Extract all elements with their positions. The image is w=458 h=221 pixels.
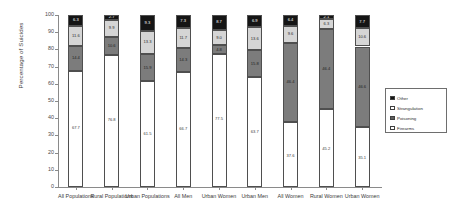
bar-segment-value: 9.9	[109, 26, 115, 30]
x-axis-tick-mark	[112, 187, 113, 190]
legend-label: Poisoning	[397, 116, 416, 121]
bar-column[interactable]: 63.715.813.66.9	[247, 15, 262, 187]
bar-column[interactable]: 76.810.69.92.7	[104, 15, 119, 187]
bar-segment-other[interactable]: 7.7	[355, 15, 370, 28]
bar-segment-poisoning[interactable]: 46.6	[355, 47, 370, 127]
bar-column[interactable]: 45.246.46.32.1	[319, 15, 334, 187]
legend-item-strangulation[interactable]: Strangulation	[390, 103, 443, 113]
bar-segment-firearms[interactable]: 66.7	[176, 72, 191, 187]
bar-column[interactable]: 37.646.49.66.4	[283, 15, 298, 187]
y-axis-tick-label: 80	[38, 45, 54, 51]
legend-swatch-firearms	[390, 126, 395, 131]
bar-segment-value: 63.7	[251, 130, 259, 134]
y-axis-tick-mark	[55, 187, 58, 188]
bar-column[interactable]: 67.714.411.66.3	[68, 15, 83, 187]
bar-segment-other[interactable]: 2.1	[319, 15, 334, 19]
legend-label: Other	[397, 96, 408, 101]
bar-segment-strangulation[interactable]: 9.9	[104, 20, 119, 37]
y-axis-tick-label: 40	[38, 114, 54, 120]
bar-segment-value: 46.4	[287, 80, 295, 84]
legend-item-firearms[interactable]: Firearms	[390, 123, 443, 133]
bar-segment-value: 67.7	[72, 126, 80, 130]
y-axis-tick-label: 60	[38, 80, 54, 86]
bar-column[interactable]: 35.146.610.67.7	[355, 15, 370, 187]
bar-segment-value: 7.3	[180, 19, 186, 23]
bar-segment-firearms[interactable]: 67.7	[68, 71, 83, 187]
bar-segment-firearms[interactable]: 37.6	[283, 122, 298, 187]
bar-segment-value: 13.6	[251, 37, 259, 41]
legend-swatch-poisoning	[390, 116, 395, 121]
bar-segment-value: 13.3	[143, 40, 151, 44]
bar-segment-value: 10.6	[108, 44, 116, 48]
bar-segment-strangulation[interactable]: 11.6	[68, 26, 83, 46]
x-axis-tick-mark	[255, 187, 256, 190]
chart-legend: OtherStrangulationPoisoningFirearms	[385, 88, 447, 133]
bar-column[interactable]: 61.515.913.39.3	[140, 15, 155, 187]
bar-segment-value: 77.5	[215, 117, 223, 121]
x-axis-tick-mark	[76, 187, 77, 190]
bar-segment-value: 9.6	[288, 32, 294, 36]
legend-label: Firearms	[397, 126, 414, 131]
bar-segment-poisoning[interactable]: 14.4	[68, 46, 83, 71]
bar-segment-value: 46.4	[322, 67, 330, 71]
bar-segment-other[interactable]: 9.3	[140, 15, 155, 31]
bar-segment-value: 9.3	[145, 21, 151, 25]
legend-label: Strangulation	[397, 106, 423, 111]
bar-segment-value: 4.8	[216, 48, 222, 52]
bar-segment-value: 11.6	[72, 34, 80, 38]
bar-segment-firearms[interactable]: 63.7	[247, 77, 262, 187]
x-axis-tick-mark	[362, 187, 363, 190]
legend-swatch-other	[390, 96, 395, 101]
bar-segment-other[interactable]: 7.3	[176, 15, 191, 28]
bar-segment-poisoning[interactable]: 4.8	[212, 45, 227, 53]
x-axis-line	[58, 187, 382, 188]
bar-segment-value: 76.8	[108, 118, 116, 122]
bar-segment-strangulation[interactable]: 9.6	[283, 26, 298, 43]
bar-segment-value: 66.7	[179, 127, 187, 131]
bar-segment-poisoning[interactable]: 10.6	[104, 37, 119, 55]
bar-segment-poisoning[interactable]: 15.9	[140, 54, 155, 81]
bar-column[interactable]: 77.54.89.08.7	[212, 15, 227, 187]
bar-segment-other[interactable]: 6.3	[68, 15, 83, 26]
bar-column[interactable]: 66.714.311.77.3	[176, 15, 191, 187]
bar-segment-strangulation[interactable]: 10.6	[355, 28, 370, 46]
bar-segment-value: 7.7	[359, 20, 365, 24]
bar-segment-firearms[interactable]: 76.8	[104, 55, 119, 187]
legend-swatch-strangulation	[390, 106, 395, 111]
bar-segment-value: 35.1	[358, 156, 366, 160]
bar-segment-value: 9.0	[216, 36, 222, 40]
bar-segment-value: 2.7	[109, 15, 115, 19]
legend-item-other[interactable]: Other	[390, 93, 443, 103]
bar-segment-value: 6.3	[323, 22, 329, 26]
bar-segment-strangulation[interactable]: 6.3	[319, 19, 334, 30]
x-axis-tick-mark	[183, 187, 184, 190]
bar-segment-other[interactable]: 6.4	[283, 15, 298, 26]
bar-segment-poisoning[interactable]: 15.8	[247, 50, 262, 77]
bar-segment-poisoning[interactable]: 14.3	[176, 48, 191, 73]
bar-segment-strangulation[interactable]: 13.6	[247, 27, 262, 50]
bar-segment-strangulation[interactable]: 13.3	[140, 31, 155, 54]
y-axis-tick-label: 30	[38, 131, 54, 137]
bar-segment-other[interactable]: 6.9	[247, 15, 262, 27]
bar-segment-firearms[interactable]: 45.2	[319, 109, 334, 187]
bar-segment-poisoning[interactable]: 46.4	[283, 43, 298, 123]
bar-segment-strangulation[interactable]: 9.0	[212, 30, 227, 45]
x-axis-tick-mark	[147, 187, 148, 190]
bar-segment-poisoning[interactable]: 46.4	[319, 29, 334, 109]
bar-segment-firearms[interactable]: 61.5	[140, 81, 155, 187]
bar-segment-value: 61.5	[143, 132, 151, 136]
bar-segment-firearms[interactable]: 35.1	[355, 127, 370, 187]
bar-segment-firearms[interactable]: 77.5	[212, 54, 227, 187]
x-axis-labels: All PopulationsRural PopulationsUrban Po…	[58, 192, 380, 218]
y-axis-title: Percentage of Suicides	[17, 0, 24, 116]
bar-segment-value: 46.6	[358, 85, 366, 89]
bar-segment-value: 45.2	[322, 147, 330, 151]
bar-segment-value: 2.1	[323, 15, 329, 19]
bar-segment-value: 8.7	[216, 20, 222, 24]
bar-segment-strangulation[interactable]: 11.7	[176, 28, 191, 48]
x-axis-tick-mark	[291, 187, 292, 190]
legend-item-poisoning[interactable]: Poisoning	[390, 113, 443, 123]
bar-segment-other[interactable]: 2.7	[104, 15, 119, 20]
bar-segment-other[interactable]: 8.7	[212, 15, 227, 30]
bar-segment-value: 15.9	[143, 66, 151, 70]
